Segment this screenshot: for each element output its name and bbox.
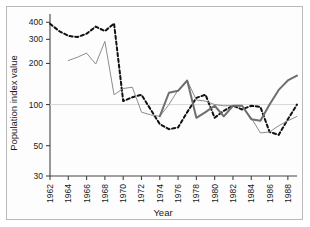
x-tick-label: 1980	[210, 184, 220, 203]
x-tick-label: 1970	[118, 184, 128, 203]
x-tick-label: 1978	[191, 184, 201, 203]
x-tick-label: 1976	[173, 184, 183, 203]
x-tick-label: 1962	[45, 184, 55, 203]
x-tick-label: 1964	[63, 184, 73, 203]
x-axis-ticks: 1962196419661968197019721974197619781980…	[45, 176, 293, 203]
x-tick-label: 1982	[228, 184, 238, 203]
chart-svg: 4003002001005030 19621964196619681970197…	[0, 0, 310, 227]
y-axis-ticks: 4003002001005030	[29, 17, 50, 181]
x-axis-title: Year	[153, 207, 172, 218]
x-tick-label: 1984	[246, 184, 256, 203]
x-tick-label: 1988	[283, 184, 293, 203]
y-axis-title: Population index value	[8, 55, 19, 151]
y-tick-label: 400	[29, 17, 43, 27]
chart-figure: 4003002001005030 19621964196619681970197…	[0, 0, 310, 227]
x-tick-label: 1972	[136, 184, 146, 203]
x-tick-label: 1966	[82, 184, 92, 203]
plot-area: 4003002001005030 19621964196619681970197…	[0, 0, 310, 227]
y-tick-label: 30	[34, 171, 44, 181]
y-tick-label: 300	[29, 34, 43, 44]
series-dashed	[50, 23, 297, 134]
series-thick-gray	[160, 76, 297, 121]
x-tick-label: 1974	[155, 184, 165, 203]
y-tick-label: 200	[29, 58, 43, 68]
x-tick-label: 1968	[100, 184, 110, 203]
data-series-group	[50, 23, 297, 134]
y-tick-label: 100	[29, 100, 43, 110]
x-tick-label: 1986	[265, 184, 275, 203]
y-tick-label: 50	[34, 141, 44, 151]
